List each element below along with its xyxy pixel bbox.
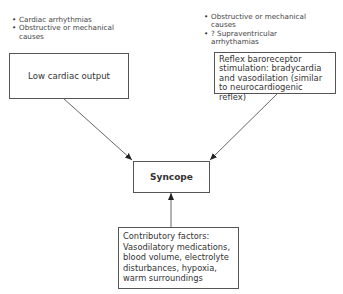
bullet-item: ? Supraventricular arrhythamias — [203, 30, 315, 47]
right-cause-bullets: Obstructive or mechanical causes ? Supra… — [203, 13, 315, 47]
arrow-left-to-syncope — [63, 98, 132, 160]
left-cause-bullets: Cardiac arrhythmias Obstructive or mecha… — [11, 16, 126, 41]
reflex-baroreceptor-box: Reflex baroreceptor stimulation: bradyca… — [214, 52, 336, 94]
low-cardiac-output-label: Low cardiac output — [28, 71, 110, 82]
contributory-factors-label: Contributory factors: Vasodilatory medic… — [123, 231, 234, 284]
syncope-label: Syncope — [150, 172, 193, 183]
syncope-box: Syncope — [133, 161, 210, 193]
bullet-item: Obstructive or mechanical causes — [203, 13, 315, 30]
contributory-factors-box: Contributory factors: Vasodilatory medic… — [118, 227, 239, 289]
arrow-right-to-syncope — [210, 93, 278, 160]
bullet-item: Obstructive or mechanical causes — [11, 24, 126, 41]
low-cardiac-output-box: Low cardiac output — [9, 53, 129, 99]
reflex-baroreceptor-label: Reflex baroreceptor stimulation: bradyca… — [219, 55, 331, 102]
